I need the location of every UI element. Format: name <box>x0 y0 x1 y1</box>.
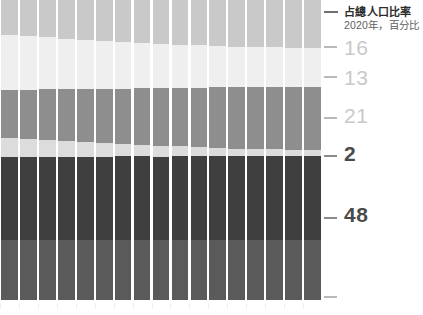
x-tick-8 <box>133 303 134 309</box>
x-axis <box>0 300 322 315</box>
axis-label-2: 2 <box>344 143 356 164</box>
axis-tick-48 <box>324 217 337 219</box>
segment-band-4 <box>266 149 283 156</box>
segment-band-1 <box>153 0 170 44</box>
axis-tick-bottom <box>324 296 337 298</box>
segment-band-1 <box>172 0 189 45</box>
segment-band-2 <box>191 45 208 87</box>
x-tick-4 <box>57 303 58 309</box>
axis-tick-13 <box>324 76 337 78</box>
segment-band-4 <box>115 144 132 157</box>
segment-band-2 <box>266 47 283 87</box>
segment-band-2 <box>96 41 113 89</box>
segment-band-5 <box>58 157 75 300</box>
segment-band-3 <box>77 89 94 142</box>
segment-band-2 <box>209 46 226 87</box>
segment-band-4 <box>58 141 75 157</box>
segment-band-3 <box>134 88 151 144</box>
x-tick-5 <box>76 303 77 309</box>
column-17 <box>304 0 321 300</box>
segment-band-3 <box>247 87 264 149</box>
x-tick-13 <box>227 303 228 309</box>
segment-band-2 <box>39 37 56 89</box>
segment-band-4 <box>228 149 245 157</box>
segment-band-1 <box>266 0 283 47</box>
segment-band-1 <box>228 0 245 47</box>
axis-label-21: 21 <box>344 105 368 126</box>
segment-band-3 <box>209 87 226 147</box>
segment-band-2 <box>58 39 75 90</box>
column-13 <box>228 0 245 300</box>
segment-band-5 <box>172 156 189 300</box>
segment-band-3 <box>266 87 283 149</box>
column-15 <box>266 0 283 300</box>
segment-band-1 <box>58 0 75 39</box>
axis-tick-16 <box>324 46 337 48</box>
column-11 <box>191 0 208 300</box>
segment-band-3 <box>96 89 113 143</box>
segment-band-5 <box>153 157 170 300</box>
column-16 <box>285 0 302 300</box>
segment-band-1 <box>247 0 264 47</box>
segment-band-3 <box>1 90 18 138</box>
segment-band-4 <box>20 139 37 157</box>
x-tick-1 <box>0 303 1 309</box>
segment-band-4 <box>247 149 264 156</box>
segment-band-4 <box>39 140 56 157</box>
segment-band-5 <box>39 157 56 300</box>
segment-band-3 <box>153 88 170 146</box>
segment-band-5 <box>20 157 37 300</box>
segment-band-1 <box>191 0 208 45</box>
value-axis: 16 13 21 2 48 <box>322 0 423 315</box>
segment-band-3 <box>58 89 75 141</box>
segment-band-5 <box>96 157 113 300</box>
axis-label-13: 13 <box>344 67 368 88</box>
segment-band-2 <box>1 35 18 91</box>
segment-band-3 <box>172 88 189 147</box>
segment-band-1 <box>115 0 132 42</box>
segment-band-5 <box>247 156 264 300</box>
segment-band-4 <box>134 145 151 157</box>
column-3 <box>39 0 56 300</box>
legend-dash-icon <box>324 11 338 13</box>
x-tick-12 <box>208 303 209 309</box>
segment-band-1 <box>77 0 94 40</box>
axis-label-16: 16 <box>344 37 368 58</box>
segment-band-2 <box>247 47 264 87</box>
column-12 <box>209 0 226 300</box>
segment-band-1 <box>304 0 321 48</box>
segment-band-3 <box>304 87 321 150</box>
segment-band-5 <box>77 157 94 300</box>
axis-tick-2 <box>324 155 337 157</box>
column-14 <box>247 0 264 300</box>
segment-band-2 <box>304 48 321 87</box>
column-9 <box>153 0 170 300</box>
column-1 <box>1 0 18 300</box>
segment-band-2 <box>285 48 302 87</box>
x-tick-15 <box>265 303 266 309</box>
segment-band-4 <box>153 146 170 157</box>
segment-band-3 <box>191 88 208 147</box>
x-tick-14 <box>246 303 247 309</box>
column-7 <box>115 0 132 300</box>
segment-band-1 <box>20 0 37 36</box>
x-tick-2 <box>19 303 20 309</box>
segment-band-3 <box>285 87 302 150</box>
segment-band-2 <box>134 43 151 88</box>
axis-label-48: 48 <box>344 204 368 225</box>
x-tick-9 <box>152 303 153 309</box>
x-tick-17 <box>303 303 304 309</box>
segment-band-2 <box>115 42 132 89</box>
segment-band-1 <box>39 0 56 37</box>
segment-band-4 <box>96 143 113 157</box>
segment-band-5 <box>228 156 245 300</box>
segment-band-1 <box>134 0 151 43</box>
segment-band-3 <box>115 89 132 144</box>
column-5 <box>77 0 94 300</box>
segment-band-4 <box>77 142 94 157</box>
segment-band-1 <box>1 0 18 35</box>
segment-band-5 <box>1 157 18 300</box>
segment-band-5 <box>285 156 302 300</box>
segment-band-2 <box>228 47 245 88</box>
column-6 <box>96 0 113 300</box>
